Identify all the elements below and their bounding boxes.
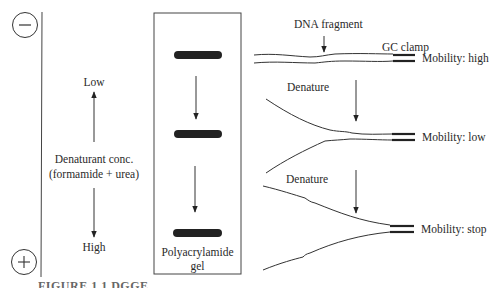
mobility-low-label: Mobility: low: [422, 130, 486, 144]
denaturant-title-line2: (formamide + urea): [44, 167, 144, 181]
negative-electrode-icon: [13, 13, 38, 38]
gc-clamp-1: [393, 55, 415, 61]
mobility-high-label: Mobility: high: [422, 51, 489, 65]
dna-duplex-native: [254, 54, 393, 63]
mobility-stop-label: Mobility: stop: [421, 222, 487, 236]
dna-fully-denatured: [263, 186, 390, 270]
dna-fragment-label: DNA fragment: [294, 17, 363, 31]
denaturant-title-line1: Denaturant conc.: [44, 152, 144, 166]
gel-label-line2: gel: [154, 259, 241, 273]
low-label: Low: [79, 75, 109, 89]
dna-partially-denatured: [266, 99, 392, 173]
high-label: High: [74, 240, 114, 254]
gel-band-bottom: [173, 229, 222, 237]
denature-label-1: Denature: [287, 80, 329, 94]
positive-electrode-icon: [12, 250, 37, 275]
gel-label-line1: Polyacrylamide: [154, 245, 241, 259]
gel-band-top: [174, 51, 222, 59]
gc-clamp-3: [390, 226, 414, 232]
figure-caption: FIGURE 1.1 DGGE ...: [38, 279, 163, 288]
gradient-axis-line: [41, 12, 42, 277]
gel-band-middle: [174, 130, 222, 138]
gc-clamp-2: [392, 134, 415, 140]
denature-label-2: Denature: [286, 172, 328, 186]
